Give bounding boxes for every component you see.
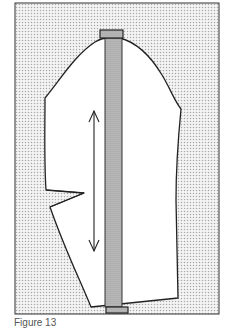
ruler-top-tab xyxy=(100,30,123,38)
sleeve-pattern-figure xyxy=(0,0,232,328)
figure-caption: Figure 13 xyxy=(14,318,56,328)
ruler-bottom-tab xyxy=(106,307,128,313)
